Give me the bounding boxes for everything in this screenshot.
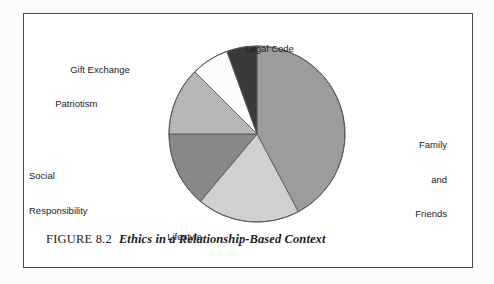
pie-label-legal-code-text: Legal Code <box>245 43 294 54</box>
figure-caption: FIGURE 8.2Ethics in a Relationship-Based… <box>46 232 326 247</box>
pie-label-social-responsibility-line1: Social <box>29 170 154 182</box>
pie-label-legal-code: Legal Code <box>199 31 319 66</box>
pie-label-patriotism: Patriotism <box>34 86 154 121</box>
figure-page: Legal Code Gift Exchange Patriotism Soci… <box>0 0 494 284</box>
pie-label-family-line2: and <box>352 174 447 186</box>
pie-label-family-line3: Friends <box>352 208 447 220</box>
pie-label-social-responsibility-line2: Responsibility <box>29 205 154 217</box>
figure-caption-title: Ethics in a Relationship-Based Context <box>119 232 326 246</box>
figure-caption-number: FIGURE 8.2 <box>46 232 112 246</box>
pie-label-patriotism-text: Patriotism <box>55 98 97 109</box>
pie-label-gift-exchange-text: Gift Exchange <box>70 64 130 75</box>
pie-label-gift-exchange: Gift Exchange <box>49 52 174 87</box>
figure-box: Legal Code Gift Exchange Patriotism Soci… <box>23 13 473 268</box>
pie-chart-area: Legal Code Gift Exchange Patriotism Soci… <box>24 14 474 269</box>
pie-label-family-line1: Family <box>352 139 447 151</box>
pie-label-family-and-friends: Family and Friends <box>352 116 447 243</box>
pie-slice-group <box>169 46 345 222</box>
